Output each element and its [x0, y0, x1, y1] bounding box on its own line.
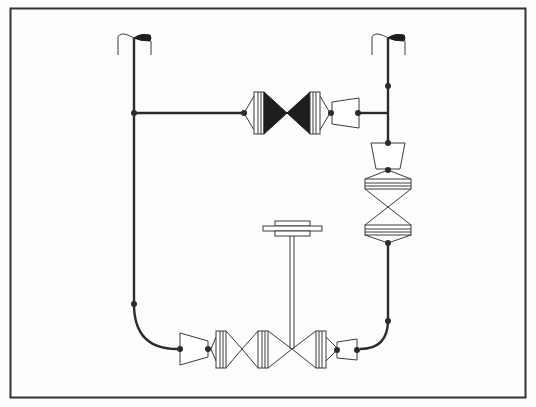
right-valve-pair-icon — [365, 170, 411, 243]
schematic-svg — [0, 0, 536, 407]
lower-left-reducer-icon — [180, 333, 208, 365]
lower-valve-chain-icon — [211, 331, 338, 368]
upper-valve-pair-icon — [244, 92, 330, 134]
pipe-network — [134, 38, 388, 349]
stem-handle-icon — [263, 221, 322, 349]
diagram-canvas — [0, 0, 536, 407]
right-reducer-icon — [371, 143, 405, 169]
lower-right-reducer-icon — [337, 339, 357, 360]
upper-reducer-icon — [332, 98, 359, 128]
